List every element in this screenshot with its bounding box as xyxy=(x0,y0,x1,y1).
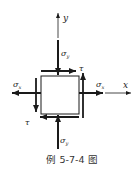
figure-caption: 例 5-7-4 图 xyxy=(46,154,97,165)
sigma-x-left-label: σx xyxy=(13,80,21,90)
y-axis-label: y xyxy=(62,13,69,23)
x-axis-label: x xyxy=(123,80,128,90)
tau-bottom-left-label: τ xyxy=(25,118,30,127)
sigma-y-bottom-label: σy xyxy=(60,136,68,147)
sigma-x-right-label: σx xyxy=(96,80,104,90)
sigma-y-top-label: σy xyxy=(61,49,69,60)
stress-element-square xyxy=(41,76,79,114)
tau-top-right-label: τ xyxy=(79,64,84,73)
stress-element-diagram: y x σy σy σx σx τ τ 例 5-7-4 图 xyxy=(0,0,138,170)
